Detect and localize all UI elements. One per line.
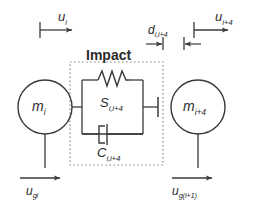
label-right-mass: mi+4 xyxy=(183,99,206,116)
label-dashpot-symbol: C xyxy=(97,145,106,160)
spring-symbol xyxy=(98,71,130,86)
label-damping-coefficient: Ci,i+4 xyxy=(97,146,120,163)
label-right-mass-subscript: i+4 xyxy=(195,107,206,117)
label-displacement-right-mass: ui+4 xyxy=(215,10,233,27)
label-left-mass: mi xyxy=(32,99,45,116)
label-gap-symbol: d xyxy=(148,23,155,37)
displacement-indicator-left xyxy=(40,22,72,38)
left-mass-node xyxy=(18,80,72,168)
label-ground-motion-left-symbol: u xyxy=(26,184,33,198)
label-ground-motion-right: ug(i+1) xyxy=(172,185,197,200)
label-displacement-left-mass-subscript: i xyxy=(65,18,67,27)
label-left-mass-subscript: i xyxy=(44,107,46,117)
impact-model-diagram: ui ui+4 di,i+4 Impact mi mi+4 Si,i+4 Ci,… xyxy=(0,0,263,210)
dashpot-symbol xyxy=(82,124,143,145)
label-right-mass-symbol: m xyxy=(183,98,195,114)
label-displacement-left-mass: ui xyxy=(58,10,67,27)
label-ground-motion-left: ugi xyxy=(26,185,38,200)
label-spring-subscript: i,i+4 xyxy=(109,104,123,113)
label-ground-motion-right-symbol: u xyxy=(172,184,179,198)
label-spring-stiffness: Si,i+4 xyxy=(100,96,123,113)
label-gap-dimension: di,i+4 xyxy=(148,24,168,39)
label-spring-symbol: S xyxy=(100,95,109,110)
impact-group-title: Impact xyxy=(86,47,131,63)
label-displacement-right-mass-subscript: i+4 xyxy=(222,18,232,27)
label-gap-subscript: i,i+4 xyxy=(155,30,168,39)
label-dashpot-subscript: i,i+4 xyxy=(106,154,120,163)
label-left-mass-symbol: m xyxy=(32,98,44,114)
label-ground-motion-right-subscript: g(i+1) xyxy=(179,191,197,200)
contact-terminator xyxy=(143,97,158,117)
label-ground-motion-left-subscript: gi xyxy=(33,191,38,200)
right-mass-node xyxy=(171,80,225,168)
